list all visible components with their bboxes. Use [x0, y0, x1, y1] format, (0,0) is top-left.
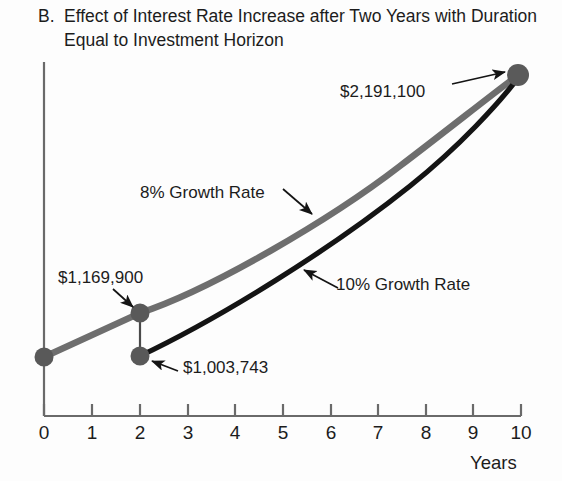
x-tick-label-1: 1 — [77, 422, 107, 444]
marker-year2-after — [131, 347, 150, 366]
annotation-endpoint-value: $2,191,100 — [340, 82, 425, 102]
marker-origin — [35, 348, 54, 367]
x-tick-label-9: 9 — [458, 422, 488, 444]
chart-figure: B. Effect of Interest Rate Increase afte… — [0, 0, 562, 481]
arrow-value-before — [113, 289, 133, 307]
marker-endpoint — [507, 64, 529, 86]
x-tick-label-0: 0 — [29, 422, 59, 444]
arrow-10-percent-label — [304, 270, 338, 288]
x-tick-label-7: 7 — [363, 422, 393, 444]
x-tick-label-8: 8 — [411, 422, 441, 444]
x-tick-label-3: 3 — [173, 422, 203, 444]
annotation-value-before: $1,169,900 — [58, 268, 143, 288]
annotation-8-percent: 8% Growth Rate — [140, 183, 265, 203]
annotation-10-percent: 10% Growth Rate — [336, 275, 470, 295]
x-tick-label-10: 10 — [506, 422, 536, 444]
x-axis-title: Years — [470, 452, 517, 474]
arrow-8-percent-label — [283, 189, 312, 214]
x-tick-label-5: 5 — [268, 422, 298, 444]
series-line-8-percent — [44, 76, 517, 357]
x-tick-label-2: 2 — [125, 422, 155, 444]
x-tick-label-4: 4 — [220, 422, 250, 444]
x-tick-label-6: 6 — [316, 422, 346, 444]
arrow-endpoint-value — [452, 72, 505, 84]
annotation-value-after: $1,003,743 — [183, 358, 268, 378]
chart-plot-area — [0, 0, 562, 481]
x-axis-ticks — [44, 404, 521, 416]
arrow-value-after — [152, 361, 178, 371]
